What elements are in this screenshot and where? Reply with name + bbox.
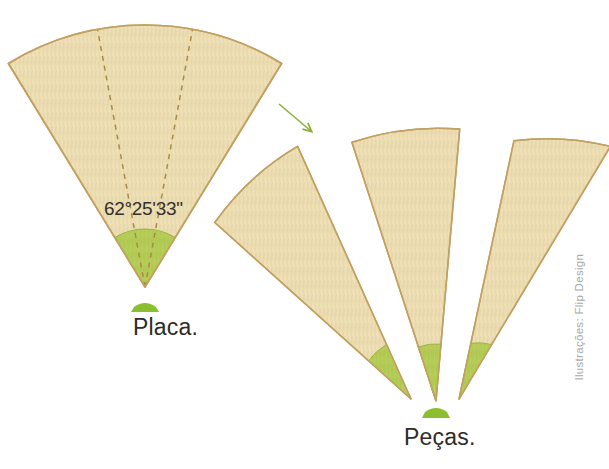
large-wood-sector bbox=[8, 25, 281, 287]
arrow-shaft bbox=[279, 104, 311, 131]
pecas-marker-shape bbox=[422, 408, 450, 418]
angle-measure-label: 62°25'33" bbox=[104, 198, 183, 220]
green-trapezoid-icon-pecas bbox=[422, 408, 450, 418]
piece-center-green bbox=[418, 344, 441, 401]
piece-right bbox=[459, 139, 609, 399]
placa-marker-shape bbox=[131, 303, 159, 312]
placa-caption: Placa. bbox=[133, 314, 198, 341]
arrow-down-right-icon bbox=[279, 104, 311, 131]
plate-green-band bbox=[115, 229, 175, 287]
illustration-canvas: 62°25'33" Placa. Peças. Ilustrações: Fli… bbox=[0, 0, 609, 469]
figure-artwork bbox=[0, 0, 609, 469]
illustration-credit: Ilustrações: Flip Design bbox=[573, 206, 585, 381]
pecas-caption: Peças. bbox=[404, 424, 476, 451]
green-trapezoid-icon-placa bbox=[131, 303, 159, 312]
